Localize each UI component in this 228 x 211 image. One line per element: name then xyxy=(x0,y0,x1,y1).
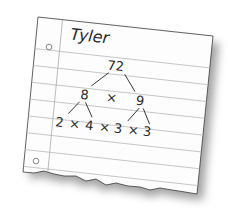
binder-hole-icon xyxy=(33,158,39,164)
root-number: 72 xyxy=(107,58,125,75)
prime-factor: 4 xyxy=(84,118,94,134)
factor-left: 8 xyxy=(80,87,90,103)
notebook-paper-illustration: Tyler 72 8 × 9 2 × 4 × 3 × 3 xyxy=(0,0,228,211)
binder-hole-icon xyxy=(46,44,52,50)
prime-factor: 3 xyxy=(142,124,152,140)
operator: × xyxy=(68,116,80,132)
operator: × xyxy=(127,122,139,138)
operator: × xyxy=(105,90,117,106)
notebook-paper xyxy=(20,15,220,194)
prime-factor: 2 xyxy=(55,114,65,130)
prime-factor: 3 xyxy=(113,121,123,137)
factor-right: 9 xyxy=(135,93,145,109)
operator: × xyxy=(98,119,110,135)
